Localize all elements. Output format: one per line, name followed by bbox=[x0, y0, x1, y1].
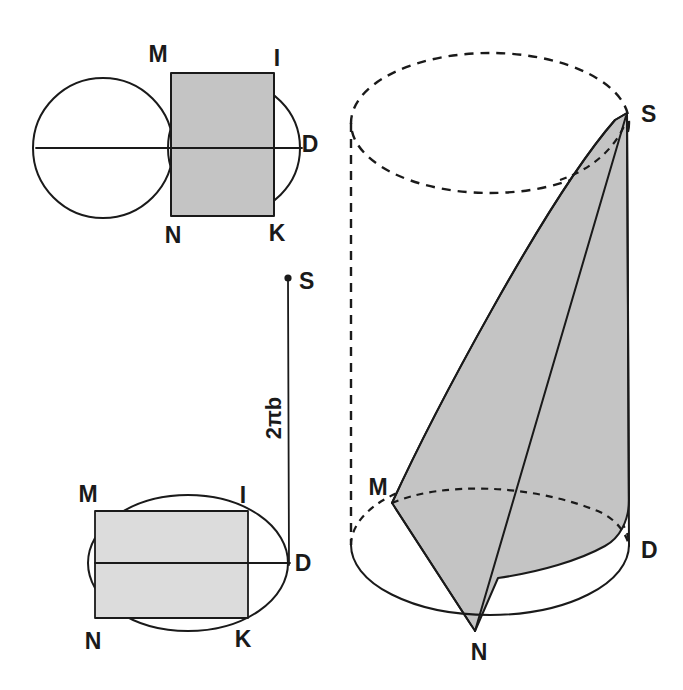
bottom-left-label-i: I bbox=[240, 482, 246, 508]
top-left-figure: M I D N K bbox=[33, 41, 318, 248]
figure-canvas: M I D N K S 2πb M I D N K bbox=[0, 0, 683, 690]
measure-segment-line bbox=[288, 280, 289, 565]
top-left-label-i: I bbox=[274, 45, 280, 71]
right-figure-label-m: M bbox=[368, 474, 387, 500]
cone-shaded-body bbox=[392, 113, 629, 631]
right-figure-label-s: S bbox=[641, 101, 656, 127]
top-left-label-k: K bbox=[269, 220, 286, 246]
bottom-left-figure: M I D N K bbox=[78, 481, 311, 654]
right-figure-label-n: N bbox=[471, 639, 488, 665]
top-left-label-d: D bbox=[302, 131, 319, 157]
measure-label-s: S bbox=[299, 268, 314, 294]
right-figure: S M D N bbox=[351, 53, 658, 665]
top-left-label-n: N bbox=[165, 222, 182, 248]
measure-label-2pib: 2πb bbox=[261, 397, 286, 440]
top-left-shaded-rectangle bbox=[171, 73, 274, 216]
top-left-label-m: M bbox=[148, 41, 167, 67]
bottom-left-label-n: N bbox=[85, 628, 102, 654]
measure-apex-dot bbox=[284, 274, 291, 281]
measure-figure: S 2πb bbox=[261, 268, 314, 565]
geometry-diagram: M I D N K S 2πb M I D N K bbox=[0, 0, 683, 690]
bottom-left-label-m: M bbox=[78, 481, 97, 507]
right-figure-label-d: D bbox=[641, 537, 658, 563]
bottom-left-shaded-rectangle bbox=[95, 511, 248, 618]
bottom-left-label-k: K bbox=[235, 626, 252, 652]
bottom-left-label-d: D bbox=[295, 550, 312, 576]
